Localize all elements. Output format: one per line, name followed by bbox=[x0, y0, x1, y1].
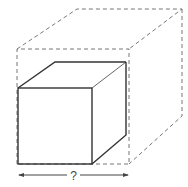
outer-side-face bbox=[129, 9, 182, 164]
arrowhead-right-icon bbox=[123, 173, 129, 177]
inner-top-right-edge bbox=[92, 62, 126, 88]
outer-top-face bbox=[17, 9, 182, 49]
inner-solid-cube bbox=[18, 62, 126, 164]
inner-top-left-edge bbox=[18, 62, 126, 88]
cube-diagram: ? bbox=[0, 0, 188, 187]
outer-dashed-cube bbox=[17, 9, 182, 164]
arrowhead-left-icon bbox=[18, 173, 24, 177]
inner-right-edges bbox=[92, 62, 126, 164]
dimension-label: ? bbox=[70, 169, 77, 183]
dimension-arrow: ? bbox=[18, 169, 129, 183]
inner-front-face bbox=[18, 88, 92, 164]
